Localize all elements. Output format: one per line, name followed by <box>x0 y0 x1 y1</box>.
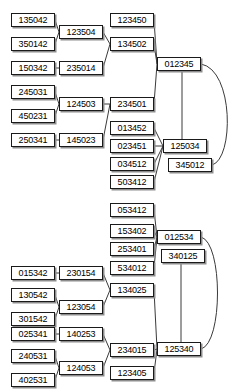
node-234501[interactable]: 234501 <box>110 97 154 111</box>
node-025341[interactable]: 025341 <box>11 327 55 341</box>
node-253401[interactable]: 253401 <box>110 242 154 256</box>
node-503412[interactable]: 503412 <box>110 175 154 189</box>
node-135042[interactable]: 135042 <box>11 13 55 27</box>
edge-140253-234015 <box>103 334 110 350</box>
node-125340[interactable]: 125340 <box>157 342 201 356</box>
node-450231[interactable]: 450231 <box>11 109 55 123</box>
edge-013452-125034 <box>154 128 163 146</box>
node-015342[interactable]: 015342 <box>11 266 55 280</box>
node-145023[interactable]: 145023 <box>59 133 103 147</box>
diagram-canvas: 1350423501421503422450314502312503411235… <box>0 0 229 391</box>
node-301542[interactable]: 301542 <box>11 312 55 326</box>
edge-124053-234015 <box>103 350 110 368</box>
node-245031[interactable]: 245031 <box>11 85 55 99</box>
node-340125[interactable]: 340125 <box>161 249 205 263</box>
edge-134025-125340 <box>154 290 157 349</box>
node-123054[interactable]: 123054 <box>59 300 103 314</box>
node-234015[interactable]: 234015 <box>110 343 154 357</box>
node-034512[interactable]: 034512 <box>110 157 154 171</box>
edge-503412-125034 <box>154 146 163 182</box>
node-153402[interactable]: 153402 <box>110 224 154 238</box>
node-123405[interactable]: 123405 <box>110 366 154 380</box>
node-124053[interactable]: 124053 <box>59 361 103 375</box>
node-402531[interactable]: 402531 <box>11 373 55 387</box>
edge-123054-134025 <box>103 290 110 307</box>
edge-034512-125034 <box>154 146 163 164</box>
node-150342[interactable]: 150342 <box>11 61 55 75</box>
node-534012[interactable]: 534012 <box>110 261 154 275</box>
node-123504[interactable]: 123504 <box>59 25 103 39</box>
node-130542[interactable]: 130542 <box>11 288 55 302</box>
edge-123504-134502 <box>103 32 110 44</box>
edge-145023-234501 <box>103 104 110 140</box>
node-124503[interactable]: 124503 <box>59 97 103 111</box>
node-134502[interactable]: 134502 <box>110 37 154 51</box>
node-013452[interactable]: 013452 <box>110 121 154 135</box>
edge-235014-134502 <box>103 44 110 68</box>
node-230154[interactable]: 230154 <box>59 266 103 280</box>
node-012345[interactable]: 012345 <box>157 57 201 71</box>
node-240531[interactable]: 240531 <box>11 349 55 363</box>
node-125034[interactable]: 125034 <box>163 139 207 153</box>
node-023451[interactable]: 023451 <box>110 139 154 153</box>
node-123450[interactable]: 123450 <box>110 13 154 27</box>
node-053412[interactable]: 053412 <box>110 203 154 217</box>
node-250341[interactable]: 250341 <box>11 133 55 147</box>
node-235014[interactable]: 235014 <box>59 61 103 75</box>
node-350142[interactable]: 350142 <box>11 37 55 51</box>
edge-230154-134025 <box>103 273 110 290</box>
node-134025[interactable]: 134025 <box>110 283 154 297</box>
node-345012[interactable]: 345012 <box>168 158 212 172</box>
node-140253[interactable]: 140253 <box>59 327 103 341</box>
node-012534[interactable]: 012534 <box>157 230 201 244</box>
